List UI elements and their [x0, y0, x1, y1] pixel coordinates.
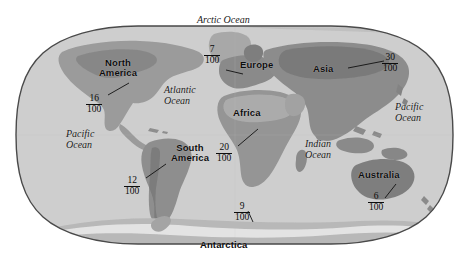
fraction-australia: 6 100	[368, 192, 384, 212]
fraction-numerator: 12	[124, 176, 140, 186]
continent-label-line1: Antarctica	[200, 239, 247, 250]
world-map-figure: North America South America Europe Afric…	[0, 0, 469, 270]
fraction-denominator: 100	[368, 202, 384, 213]
fraction-numerator: 20	[216, 143, 232, 153]
ocean-label-line1: Pacific	[395, 101, 423, 112]
fraction-denominator: 100	[86, 104, 102, 115]
fraction-south-america: 12 100	[124, 176, 140, 196]
continent-label-south-america: South America	[159, 143, 221, 162]
fraction-denominator: 100	[234, 212, 250, 223]
continent-label-australia: Australia	[358, 170, 400, 180]
ocean-label-line2: Ocean	[395, 112, 423, 123]
continent-label-north-america: North America	[87, 58, 149, 77]
fraction-europe: 7 100	[204, 45, 220, 65]
continent-label-line1: Asia	[313, 63, 333, 74]
fraction-denominator: 100	[216, 153, 232, 164]
fraction-antarctica: 9 100	[234, 202, 250, 222]
fraction-denominator: 100	[382, 63, 398, 74]
continent-label-line2: America	[159, 153, 221, 163]
ocean-label-line1: Atlantic	[164, 84, 196, 95]
continent-label-line1: Europe	[240, 59, 273, 70]
fraction-numerator: 30	[382, 53, 398, 63]
ocean-label-line1: Indian	[305, 138, 331, 149]
ocean-label-pacific-ocean-west: Pacific Ocean	[66, 128, 94, 150]
fraction-numerator: 7	[204, 45, 220, 55]
continent-label-europe: Europe	[240, 60, 273, 70]
continent-label-line1: Africa	[233, 107, 261, 118]
ocean-label-line1: Pacific	[66, 128, 94, 139]
fraction-africa: 20 100	[216, 143, 232, 163]
ocean-label-line2: Ocean	[305, 149, 331, 160]
fraction-numerator: 16	[86, 94, 102, 104]
continent-label-asia: Asia	[313, 64, 333, 74]
continent-label-antarctica: Antarctica	[200, 240, 247, 250]
fraction-north-america: 16 100	[86, 94, 102, 114]
ocean-label-pacific-ocean-east: Pacific Ocean	[395, 101, 423, 123]
fraction-denominator: 100	[204, 55, 220, 66]
ocean-label-arctic-ocean: Arctic Ocean	[197, 14, 250, 25]
continent-label-africa: Africa	[233, 108, 261, 118]
ocean-label-line2: Ocean	[164, 95, 196, 106]
ocean-label-atlantic-ocean: Atlantic Ocean	[164, 84, 196, 106]
fraction-asia: 30 100	[382, 53, 398, 73]
continent-label-line2: America	[87, 68, 149, 78]
continent-label-line1: Australia	[358, 169, 400, 180]
ocean-label-indian-ocean: Indian Ocean	[305, 138, 331, 160]
fraction-denominator: 100	[124, 186, 140, 197]
fraction-numerator: 9	[234, 202, 250, 212]
fraction-numerator: 6	[368, 192, 384, 202]
ocean-label-line1: Arctic Ocean	[197, 14, 250, 25]
ocean-label-line2: Ocean	[66, 139, 94, 150]
